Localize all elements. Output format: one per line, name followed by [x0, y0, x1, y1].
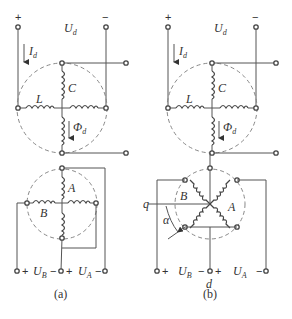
coil-a-label: A	[227, 200, 236, 214]
svg-text:−: −	[198, 265, 204, 277]
figure-a: + − Ud Id C L Φd	[15, 11, 128, 301]
svg-text:+: +	[162, 265, 168, 277]
coil-l-right-icon	[70, 106, 98, 109]
coil-a-bottom-icon	[62, 213, 65, 235]
caption-b: (b)	[203, 287, 217, 301]
voltage-ub-label: UB	[33, 264, 47, 280]
coil-a-top-icon	[62, 177, 65, 199]
terminal-ub-plus	[15, 269, 19, 273]
voltage-ua-label: UA	[233, 264, 247, 280]
coil-l-label: L	[35, 92, 43, 106]
terminal-common	[208, 269, 212, 273]
coil-c-bottom-icon	[62, 117, 65, 145]
coil-c-label: C	[218, 81, 227, 95]
svg-text:−: −	[256, 265, 262, 277]
coil-c-top-icon	[212, 71, 215, 99]
svg-text:−: −	[252, 11, 258, 23]
voltage-ua-label: UA	[78, 264, 92, 280]
current-id-label: Id	[178, 44, 188, 60]
svg-text:+: +	[215, 265, 221, 277]
terminal-ua-minus	[103, 269, 107, 273]
terminal-right-bottom	[274, 151, 278, 155]
coil-b-label: B	[40, 206, 48, 220]
figure-b: + − Ud Id C L Φd	[143, 11, 278, 301]
plus-sign: +	[15, 11, 21, 23]
terminal-right-top	[274, 61, 278, 65]
coil-b-upper-icon	[190, 180, 210, 204]
terminal-common	[59, 269, 63, 273]
coil-c-top-icon	[62, 71, 65, 99]
terminal-right-top	[124, 61, 128, 65]
coil-a-label: A	[67, 181, 76, 195]
coil-b-right-icon	[68, 201, 90, 204]
flux-label: Φd	[73, 120, 87, 136]
coil-b-left-icon	[33, 201, 55, 204]
current-id-label: Id	[28, 44, 38, 60]
coil-b-label: B	[180, 189, 188, 203]
minus-sign: −	[102, 11, 108, 23]
voltage-ub-label: UB	[178, 264, 192, 280]
coil-c-label: C	[68, 81, 77, 95]
coil-a-upper-icon	[210, 180, 230, 204]
svg-text:−: −	[95, 265, 101, 277]
coil-c-bottom-icon	[212, 117, 215, 145]
terminal-ub-plus	[155, 269, 159, 273]
svg-text:−: −	[50, 265, 56, 277]
caption-a: (a)	[54, 287, 67, 301]
coil-a-lower-icon	[210, 204, 230, 228]
voltage-ud-label: Ud	[214, 21, 228, 37]
voltage-ud-label: Ud	[64, 21, 78, 37]
svg-text:+: +	[66, 265, 72, 277]
diagram-canvas: + − Ud Id C L Φd	[0, 0, 292, 319]
terminal-minus	[104, 25, 108, 29]
angle-alpha-label: α	[163, 213, 170, 227]
terminal-plus	[166, 25, 170, 29]
terminal-ua-minus	[264, 269, 268, 273]
terminal-minus	[254, 25, 258, 29]
flux-label: Φd	[223, 120, 237, 136]
coil-l-right-icon	[220, 106, 248, 109]
svg-text:+: +	[165, 11, 171, 23]
coil-b-lower-icon	[190, 204, 210, 228]
svg-text:+: +	[22, 265, 28, 277]
terminal-right-bottom	[124, 151, 128, 155]
q-axis-label: q	[143, 197, 149, 211]
coil-l-label: L	[185, 92, 193, 106]
terminal-plus	[16, 25, 20, 29]
